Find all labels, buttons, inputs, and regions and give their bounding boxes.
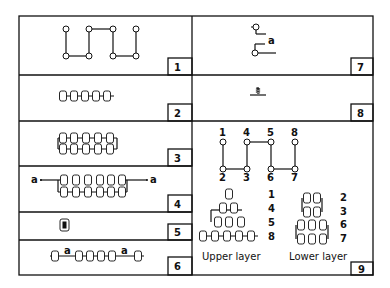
svg-text:9: 9 bbox=[358, 264, 365, 275]
node-icon bbox=[63, 53, 69, 59]
panel-6-number: 6 bbox=[168, 257, 192, 275]
svg-text:a: a bbox=[31, 174, 38, 185]
panel-5-filled-ring bbox=[60, 219, 69, 231]
upper-layer-caption: Upper layer bbox=[202, 251, 261, 262]
svg-text:7: 7 bbox=[291, 172, 298, 183]
panel-7-number: 7 bbox=[351, 58, 373, 75]
svg-text:2: 2 bbox=[340, 192, 347, 203]
panel-3-ring-ladder bbox=[58, 133, 117, 154]
panel-2-number: 2 bbox=[168, 104, 192, 121]
node-icon bbox=[110, 26, 116, 32]
svg-text:4: 4 bbox=[174, 199, 181, 210]
panel-4-number: 4 bbox=[168, 195, 192, 212]
panel-9-layered-arrangement: 1 4 5 8 2 3 6 7 1 4 bbox=[200, 127, 349, 262]
svg-text:a: a bbox=[64, 245, 71, 256]
svg-text:1: 1 bbox=[268, 189, 275, 200]
svg-text:2: 2 bbox=[219, 172, 226, 183]
svg-text:7: 7 bbox=[340, 233, 347, 244]
panel-8-number: 8 bbox=[351, 104, 373, 121]
panel-1-number: 1 bbox=[168, 58, 192, 75]
panel-5-number: 5 bbox=[168, 224, 192, 240]
svg-text:6: 6 bbox=[267, 172, 274, 183]
svg-text:4: 4 bbox=[243, 127, 250, 138]
node-icon bbox=[133, 26, 139, 32]
svg-text:1: 1 bbox=[219, 127, 226, 138]
node-icon bbox=[86, 53, 92, 59]
svg-text:2: 2 bbox=[174, 108, 181, 119]
svg-text:1: 1 bbox=[174, 62, 181, 73]
top-labels: 1 4 5 8 bbox=[219, 127, 298, 138]
panel-9-number: 9 bbox=[351, 262, 373, 275]
panel-1-chain-diagram bbox=[63, 26, 139, 59]
node-icon bbox=[110, 53, 116, 59]
node-icon bbox=[86, 26, 92, 32]
svg-text:6: 6 bbox=[340, 219, 347, 230]
svg-text:7: 7 bbox=[357, 62, 364, 73]
panel-8-ground-symbol bbox=[250, 87, 266, 95]
svg-text:a: a bbox=[121, 245, 128, 256]
svg-text:5: 5 bbox=[174, 227, 181, 238]
panel-6-ring-chain-with-spacers: a a bbox=[50, 245, 144, 261]
svg-text:a: a bbox=[150, 174, 157, 185]
panel-4-ring-ladder-with-leads: a a bbox=[31, 174, 157, 197]
svg-text:3: 3 bbox=[174, 153, 181, 164]
svg-text:8: 8 bbox=[291, 127, 298, 138]
node-icon bbox=[133, 53, 139, 59]
lower-layer-caption: Lower layer bbox=[289, 251, 348, 262]
panel-2-ring-row bbox=[59, 91, 114, 101]
upper-layer-stack: 1 4 5 8 Upper layer bbox=[200, 189, 276, 262]
svg-text:3: 3 bbox=[340, 206, 347, 217]
svg-text:3: 3 bbox=[243, 172, 250, 183]
svg-text:8: 8 bbox=[357, 108, 364, 119]
svg-text:5: 5 bbox=[268, 217, 275, 228]
svg-text:6: 6 bbox=[174, 261, 181, 272]
svg-text:a: a bbox=[268, 35, 275, 46]
svg-text:8: 8 bbox=[268, 231, 275, 242]
terminal-icon bbox=[253, 24, 259, 30]
bottom-labels: 2 3 6 7 bbox=[219, 172, 298, 183]
panel-7-terminal-connector: a bbox=[251, 24, 276, 56]
svg-text:4: 4 bbox=[268, 203, 275, 214]
svg-text:5: 5 bbox=[267, 127, 274, 138]
node-icon bbox=[63, 26, 69, 32]
terminal-icon bbox=[252, 50, 258, 56]
panel-3-number: 3 bbox=[168, 149, 192, 166]
lower-layer-stack: 2 3 6 7 Lower layer bbox=[289, 192, 348, 262]
diagram-figure: 1 2 3 4 5 6 7 8 bbox=[0, 0, 390, 288]
